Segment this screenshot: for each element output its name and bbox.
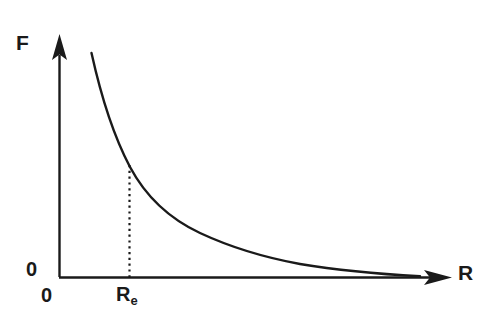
figure-root: F R 0 0 Re <box>0 0 494 325</box>
x-axis-origin-label: 0 <box>41 285 52 305</box>
x-axis-label: R <box>458 262 473 283</box>
equilibrium-label-base: R <box>116 283 130 305</box>
plot-canvas <box>0 0 494 325</box>
force-decay-curve <box>92 53 421 276</box>
y-axis-label: F <box>16 32 29 53</box>
y-axis-origin-label: 0 <box>26 259 37 279</box>
equilibrium-distance-label: Re <box>116 284 138 304</box>
equilibrium-label-subscript: e <box>130 293 137 308</box>
